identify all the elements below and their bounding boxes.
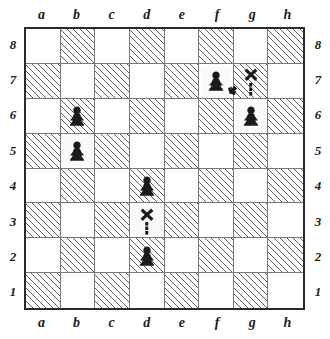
file-label-a-bottom: a [24, 312, 59, 334]
pawn-icon-f7[interactable] [207, 71, 224, 92]
square-a3[interactable] [26, 203, 61, 238]
square-c6[interactable] [95, 99, 130, 134]
square-d3[interactable] [130, 203, 165, 238]
square-g7[interactable] [234, 64, 269, 99]
file-label-h-bottom: h [270, 312, 305, 334]
file-label-e-bottom: e [165, 312, 200, 334]
square-b7[interactable] [61, 64, 96, 99]
square-a8[interactable] [26, 29, 61, 64]
square-d4[interactable] [130, 169, 165, 204]
square-h3[interactable] [268, 203, 303, 238]
square-h4[interactable] [268, 169, 303, 204]
square-c2[interactable] [95, 238, 130, 273]
pawn-icon-b6[interactable] [69, 106, 86, 127]
rank-label-1-left: 1 [2, 275, 24, 310]
file-label-f-bottom: f [200, 312, 235, 334]
square-e3[interactable] [165, 203, 200, 238]
rank-label-6-right: 6 [307, 98, 329, 133]
square-f6[interactable] [199, 99, 234, 134]
square-a7[interactable] [26, 64, 61, 99]
rank-label-7-left: 7 [2, 62, 24, 97]
rank-label-3-right: 3 [307, 204, 329, 239]
board-frame [24, 27, 305, 310]
file-label-f-top: f [200, 4, 235, 26]
square-b2[interactable] [61, 238, 96, 273]
square-g3[interactable] [234, 203, 269, 238]
square-h2[interactable] [268, 238, 303, 273]
pawn-icon-d2[interactable] [138, 245, 155, 266]
rank-labels-left: 8 7 6 5 4 3 2 1 [2, 27, 24, 310]
square-d1[interactable] [130, 273, 165, 308]
square-g8[interactable] [234, 29, 269, 64]
square-g5[interactable] [234, 134, 269, 169]
file-label-e-top: e [165, 4, 200, 26]
square-c5[interactable] [95, 134, 130, 169]
square-h8[interactable] [268, 29, 303, 64]
pawn-icon-b5[interactable] [69, 141, 86, 162]
rank-label-3-left: 3 [2, 204, 24, 239]
file-label-c-bottom: c [94, 312, 129, 334]
square-b3[interactable] [61, 203, 96, 238]
arrowhead-icon-g7 [227, 83, 240, 96]
square-b5[interactable] [61, 134, 96, 169]
square-g1[interactable] [234, 273, 269, 308]
rank-label-6-left: 6 [2, 98, 24, 133]
square-f3[interactable] [199, 203, 234, 238]
square-e5[interactable] [165, 134, 200, 169]
square-e7[interactable] [165, 64, 200, 99]
square-a1[interactable] [26, 273, 61, 308]
square-f1[interactable] [199, 273, 234, 308]
square-c7[interactable] [95, 64, 130, 99]
square-e6[interactable] [165, 99, 200, 134]
square-a4[interactable] [26, 169, 61, 204]
rank-label-2-left: 2 [2, 239, 24, 274]
x-mark-icon-d3 [139, 207, 154, 222]
rank-label-7-right: 7 [307, 62, 329, 97]
square-g2[interactable] [234, 238, 269, 273]
square-h6[interactable] [268, 99, 303, 134]
square-a5[interactable] [26, 134, 61, 169]
square-b1[interactable] [61, 273, 96, 308]
square-b4[interactable] [61, 169, 96, 204]
square-c3[interactable] [95, 203, 130, 238]
file-label-d-top: d [129, 4, 164, 26]
x-mark-icon-g7 [243, 68, 258, 83]
square-a2[interactable] [26, 238, 61, 273]
square-d2[interactable] [130, 238, 165, 273]
square-f5[interactable] [199, 134, 234, 169]
square-g4[interactable] [234, 169, 269, 204]
square-f8[interactable] [199, 29, 234, 64]
chessboard-grid[interactable] [26, 29, 303, 308]
square-b8[interactable] [61, 29, 96, 64]
square-h7[interactable] [268, 64, 303, 99]
square-a6[interactable] [26, 99, 61, 134]
square-f2[interactable] [199, 238, 234, 273]
square-d7[interactable] [130, 64, 165, 99]
square-h5[interactable] [268, 134, 303, 169]
square-b6[interactable] [61, 99, 96, 134]
square-g6[interactable] [234, 99, 269, 134]
chess-diagram: a b c d e f g h 8 7 6 5 4 3 2 1 8 7 6 5 … [0, 0, 330, 339]
pawn-icon-g6[interactable] [242, 106, 259, 127]
square-c8[interactable] [95, 29, 130, 64]
square-h1[interactable] [268, 273, 303, 308]
square-d5[interactable] [130, 134, 165, 169]
square-d8[interactable] [130, 29, 165, 64]
rank-label-8-right: 8 [307, 27, 329, 62]
pawn-icon-d4[interactable] [138, 176, 155, 197]
rank-label-2-right: 2 [307, 239, 329, 274]
square-c4[interactable] [95, 169, 130, 204]
square-d6[interactable] [130, 99, 165, 134]
square-e2[interactable] [165, 238, 200, 273]
square-e1[interactable] [165, 273, 200, 308]
rank-label-8-left: 8 [2, 27, 24, 62]
dashed-line-icon-d3 [145, 222, 149, 235]
square-e4[interactable] [165, 169, 200, 204]
rank-label-5-left: 5 [2, 133, 24, 168]
square-e8[interactable] [165, 29, 200, 64]
file-label-d-bottom: d [129, 312, 164, 334]
square-f4[interactable] [199, 169, 234, 204]
file-label-g-top: g [235, 4, 270, 26]
file-label-a-top: a [24, 4, 59, 26]
square-c1[interactable] [95, 273, 130, 308]
